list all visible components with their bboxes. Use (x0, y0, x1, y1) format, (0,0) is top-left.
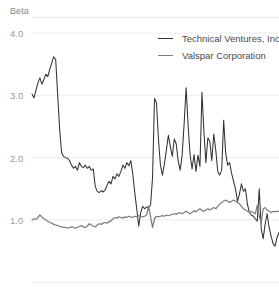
y-tick-label: 1.0 (10, 215, 23, 226)
beta-line-chart: Beta 4.03.02.01.0 Technical Ventures, In… (0, 0, 279, 287)
legend-label-valspar: Valspar Corporation (182, 50, 266, 61)
chart-legend: Technical Ventures, Inc. Valspar Corpora… (158, 30, 279, 64)
legend-label-technical-ventures: Technical Ventures, Inc. (182, 33, 279, 44)
y-tick-label: 2.0 (10, 153, 23, 164)
series-lines (32, 57, 279, 246)
series-line-2 (32, 200, 279, 228)
legend-swatch-valspar (158, 55, 173, 56)
legend-item-valspar[interactable]: Valspar Corporation (158, 47, 279, 64)
legend-swatch-technical-ventures (158, 38, 173, 39)
y-tick-label: 4.0 (10, 28, 23, 39)
y-tick-label: 3.0 (10, 90, 23, 101)
legend-item-technical-ventures[interactable]: Technical Ventures, Inc. (158, 30, 279, 47)
